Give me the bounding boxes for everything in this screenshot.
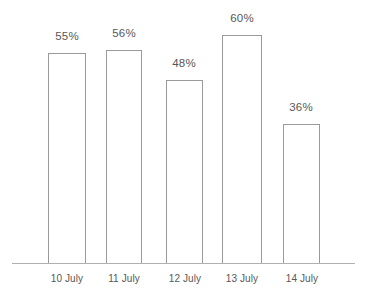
x-tick-label-1: 11 July bbox=[98, 273, 150, 284]
bar-value-label-1: 56% bbox=[102, 27, 146, 39]
x-tick-label-2: 12 July bbox=[159, 273, 211, 284]
bar-11-july[interactable] bbox=[106, 50, 142, 264]
bar-13-july[interactable] bbox=[222, 35, 262, 264]
x-tick-label-0: 10 July bbox=[41, 273, 93, 284]
bar-value-label-4: 36% bbox=[279, 101, 323, 113]
bar-14-july[interactable] bbox=[283, 124, 320, 264]
plot-area: 55% 56% 48% 60% 36% 10 July 11 July 12 J… bbox=[0, 0, 367, 303]
x-axis-line bbox=[12, 263, 355, 264]
bar-value-label-3: 60% bbox=[220, 12, 264, 24]
bar-12-july[interactable] bbox=[166, 80, 203, 264]
bar-value-label-2: 48% bbox=[162, 57, 206, 69]
bar-chart: 55% 56% 48% 60% 36% 10 July 11 July 12 J… bbox=[0, 0, 367, 303]
bar-10-july[interactable] bbox=[48, 53, 86, 264]
x-tick-label-4: 14 July bbox=[276, 273, 328, 284]
bar-value-label-0: 55% bbox=[45, 30, 89, 42]
x-tick-label-3: 13 July bbox=[216, 273, 268, 284]
